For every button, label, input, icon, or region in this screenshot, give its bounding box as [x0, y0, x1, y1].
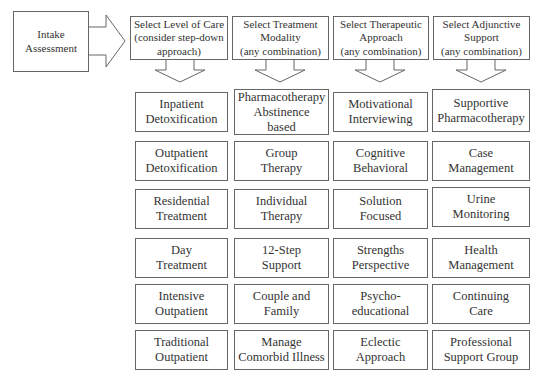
option-strengths-perspective: Strengths Perspective: [333, 238, 428, 278]
down-arrow-icon: [355, 59, 405, 82]
intake-assessment-box: Intake Assessment: [13, 11, 89, 72]
header-therapeutic-approach: Select Therapeutic Approach (any combina…: [333, 16, 429, 60]
right-arrow-icon: [88, 15, 125, 67]
header-treatment-modality: Select Treatment Modality (any combinati…: [232, 16, 329, 60]
option-individual-therapy: Individual Therapy: [234, 189, 329, 229]
option-pharmacotherapy-abstinence: Pharmacotherapy Abstinence based: [234, 89, 329, 135]
intake-label: Intake Assessment: [25, 28, 77, 54]
option-residential-treatment: Residential Treatment: [135, 189, 228, 229]
option-psychoeducational: Psycho- educational: [333, 284, 428, 324]
option-day-treatment: Day Treatment: [135, 238, 228, 278]
down-arrow-icon: [456, 59, 506, 82]
header-level-of-care: Select Level of Care (consider step-down…: [130, 16, 228, 60]
header-adjunctive-support: Select Adjunctive Support (any combinati…: [433, 16, 530, 60]
option-manage-comorbid-illness: Manage Comorbid Illness: [234, 330, 329, 370]
option-motivational-interviewing: Motivational Interviewing: [333, 92, 428, 132]
down-arrow-icon: [155, 59, 205, 82]
option-traditional-outpatient: Traditional Outpatient: [135, 330, 228, 370]
option-health-management: Health Management: [432, 238, 530, 278]
option-couple-and-family: Couple and Family: [234, 284, 329, 324]
option-cognitive-behavioral: Cognitive Behavioral: [333, 141, 428, 181]
option-outpatient-detoxification: Outpatient Detoxification: [135, 141, 228, 181]
option-urine-monitoring: Urine Monitoring: [432, 187, 530, 227]
option-professional-support-group: Professional Support Group: [432, 330, 530, 370]
option-continuing-care: Continuing Care: [432, 284, 530, 324]
down-arrow-icon: [255, 59, 305, 82]
option-eclectic-approach: Eclectic Approach: [333, 330, 428, 370]
option-case-management: Case Management: [432, 141, 530, 181]
option-solution-focused: Solution Focused: [333, 189, 428, 229]
option-supportive-pharmacotherapy: Supportive Pharmacotherapy: [432, 89, 530, 132]
option-12-step-support: 12-Step Support: [234, 238, 329, 278]
option-intensive-outpatient: Intensive Outpatient: [135, 284, 228, 324]
option-group-therapy: Group Therapy: [234, 141, 329, 181]
option-inpatient-detoxification: Inpatient Detoxification: [135, 92, 228, 132]
